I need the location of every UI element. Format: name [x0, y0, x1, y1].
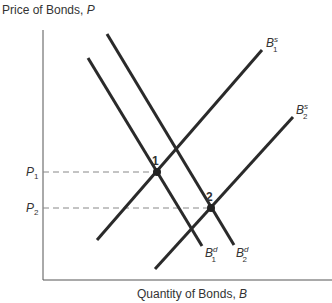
- equilibrium-point-1: [153, 168, 161, 176]
- demand-curve-1: [88, 58, 202, 246]
- bond-market-diagram: Price of Bonds, P Quantity of Bonds, B P…: [0, 0, 332, 303]
- equilibrium-label-1: 1: [152, 154, 159, 168]
- equilibrium-label-2: 2: [206, 190, 213, 204]
- p1-label: P1: [26, 165, 39, 181]
- demand-label-1: Bd1: [205, 245, 218, 264]
- supply-label-2: Bs2: [296, 102, 308, 121]
- demand-curve-2: [107, 34, 234, 245]
- equilibrium-point-2: [207, 204, 215, 212]
- supply-label-1: Bs1: [266, 35, 278, 54]
- supply-curve-2: [155, 117, 293, 269]
- demand-label-2: Bd2: [236, 245, 249, 264]
- x-axis-label: Quantity of Bonds, B: [137, 287, 247, 301]
- p2-label: P2: [26, 201, 39, 217]
- y-axis-label: Price of Bonds, P: [2, 3, 95, 17]
